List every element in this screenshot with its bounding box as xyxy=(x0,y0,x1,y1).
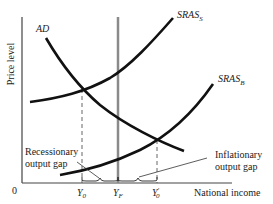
ad-label: AD xyxy=(35,23,50,34)
x-tick-yf: YF xyxy=(113,187,124,200)
inflationary-leader xyxy=(139,158,207,177)
inflationary-gap-brace xyxy=(118,177,157,181)
y-axis-label: Price level xyxy=(5,43,16,86)
sras-b-label: SRASB xyxy=(218,73,245,87)
x-tick-y0: Y0 xyxy=(77,187,87,200)
x-tick-y0-prime: Y′0 xyxy=(152,186,160,200)
recessionary-gap-brace xyxy=(82,177,118,181)
recessionary-gap-label: Recessionary xyxy=(25,146,78,157)
inflationary-gap-label-2: output gap xyxy=(215,161,258,172)
ad-sras-diagram: Price level 0 National income AD SRASS S… xyxy=(0,0,273,204)
inflationary-gap-label: Inflationary xyxy=(215,149,262,160)
origin-label: 0 xyxy=(12,185,17,196)
sras-s-label: SRASS xyxy=(177,9,203,23)
sras-s-curve xyxy=(30,18,173,102)
x-axis-label: National income xyxy=(194,187,261,198)
recessionary-gap-label-2: output gap xyxy=(25,158,68,169)
